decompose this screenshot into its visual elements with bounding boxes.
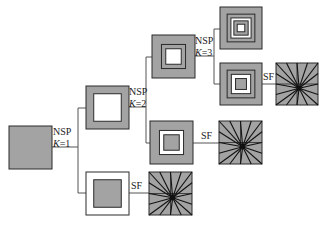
k-value: =1 [60,138,71,149]
node-k2-lower [150,121,193,164]
node-k2-upper [152,35,195,78]
edge-nsp-k3-label: NSP [195,35,214,46]
edge-sf-k2-label: SF [201,130,213,141]
nsp-tree-diagram: NSP K=1 NSP K=2 NSP K=3 SF SF SF [0,0,323,227]
k-value: =3 [202,47,213,58]
edge-sf-k3-label: SF [263,71,275,82]
nodes [9,7,318,215]
edge-nsp-k3-sublabel: K=3 [194,47,212,58]
node-k1-upper [86,86,129,129]
star-fan-center [170,195,175,200]
square-ring-2 [164,135,179,150]
square-ring-1 [94,180,122,208]
node-k3-lower [220,63,262,105]
k-value: =2 [136,98,147,109]
edge-nsp-k1-bracket [78,108,86,193]
node-sf-k2 [219,121,262,164]
edge-nsp-k1-label: NSP [53,126,72,137]
node-root [9,126,52,169]
node-sf-k3 [276,63,318,105]
edge-nsp-k2-label: NSP [129,86,148,97]
node-k1-lower [86,172,129,215]
square-ring-2 [166,49,181,64]
edge-nsp-k1-sublabel: K=1 [52,138,70,149]
square-ring-0 [9,126,52,169]
edge-sf-k1-label: SF [131,180,143,191]
star-fan-center [240,144,245,149]
node-sf-k1 [149,172,192,215]
node-k3-upper [220,7,262,49]
square-ring-3 [236,79,247,90]
square-ring-4 [237,24,245,32]
star-fan-center [297,86,302,91]
edge-nsp-k2-sublabel: K=2 [128,98,146,109]
edge-nsp-k3-bracket [214,29,220,84]
square-ring-1 [94,94,122,122]
